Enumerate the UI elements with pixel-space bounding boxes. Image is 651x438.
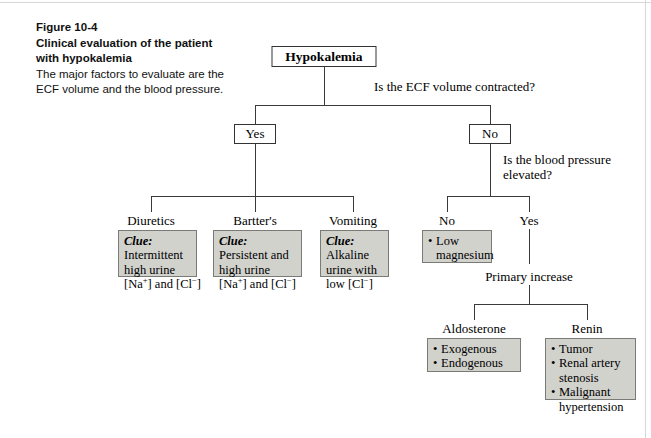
question-blood-pressure-line2: elevated? bbox=[503, 167, 552, 182]
edge-to-bp-yes bbox=[529, 196, 530, 212]
edge-to-ecf-yes bbox=[255, 105, 256, 124]
clue-bartters-line3: [Na+] and [Cl−] bbox=[219, 277, 296, 291]
node-ecf-no-label: No bbox=[482, 126, 498, 142]
figure-title-line1: Clinical evaluation of the patient bbox=[36, 36, 286, 52]
clue-box-vomiting: Clue: Alkaline urine with low [Cl−] bbox=[320, 230, 389, 277]
list-box-magnesium: •Low magnesium bbox=[422, 230, 492, 263]
clue-box-diuretics: Clue: Intermittent high urine [Na+] and … bbox=[118, 230, 197, 277]
figure-number: Figure 10-4 bbox=[36, 20, 286, 36]
clue-diuretics-head: Clue: bbox=[124, 234, 191, 248]
renin-item-2-cont: stenosis bbox=[551, 371, 630, 385]
clue-diuretics-line3: [Na+] and [Cl−] bbox=[124, 277, 191, 291]
label-vomiting: Vomiting bbox=[329, 213, 377, 228]
edge-to-ecf-no bbox=[490, 105, 491, 124]
edge-to-bartters bbox=[255, 196, 256, 212]
node-ecf-yes: Yes bbox=[234, 124, 276, 144]
renin-item-1: •Tumor bbox=[551, 342, 630, 356]
edge-root-trunk bbox=[324, 66, 325, 105]
node-hypokalemia-label: Hypokalemia bbox=[285, 49, 362, 65]
question-blood-pressure: Is the blood pressure elevated? bbox=[503, 152, 633, 182]
renin-item-3: •Malignant bbox=[551, 385, 630, 399]
aldosterone-item-1: •Exogenous bbox=[433, 342, 515, 356]
clue-bartters-head: Clue: bbox=[219, 234, 296, 248]
renin-item-2: •Renal artery bbox=[551, 356, 630, 370]
question-blood-pressure-line1: Is the blood pressure bbox=[503, 152, 611, 167]
page-rule-top bbox=[0, 2, 651, 3]
edge-to-diuretics bbox=[151, 196, 152, 212]
figure-desc-line2: ECF volume and the blood pressure. bbox=[36, 82, 286, 98]
clue-bartters-line1: Persistent and bbox=[219, 248, 296, 262]
page-rule-right bbox=[645, 0, 646, 438]
node-ecf-no: No bbox=[469, 124, 511, 144]
edge-bp-split-bar bbox=[447, 196, 530, 197]
edge-top-split-bar bbox=[255, 105, 491, 106]
label-diuretics: Diuretics bbox=[127, 213, 175, 228]
edge-no-trunk bbox=[490, 143, 491, 196]
edge-primary-trunk bbox=[529, 285, 530, 304]
edge-to-bp-no bbox=[447, 196, 448, 212]
clue-diuretics-line2: high urine bbox=[124, 263, 191, 277]
edge-to-aldosterone bbox=[474, 304, 475, 320]
clue-vomiting-line2: urine with bbox=[326, 263, 383, 277]
list-box-aldosterone: •Exogenous •Endogenous bbox=[427, 338, 521, 372]
renin-item-3-cont: hypertension bbox=[551, 400, 630, 414]
edge-to-vomiting bbox=[353, 196, 354, 212]
label-primary-increase: Primary increase bbox=[485, 269, 573, 284]
clue-vomiting-head: Clue: bbox=[326, 234, 383, 248]
edge-to-renin bbox=[587, 304, 588, 320]
edge-yes-trunk bbox=[255, 143, 256, 196]
list-box-renin: •Tumor •Renal artery stenosis •Malignant… bbox=[545, 338, 636, 400]
clue-vomiting-line3: low [Cl−] bbox=[326, 277, 383, 291]
clue-box-bartters: Clue: Persistent and high urine [Na+] an… bbox=[213, 230, 302, 277]
clue-diuretics-line1: Intermittent bbox=[124, 248, 191, 262]
edge-bp-yes-trunk bbox=[529, 229, 530, 264]
aldosterone-item-2: •Endogenous bbox=[433, 356, 515, 370]
figure-title-line2: with hypokalemia bbox=[36, 51, 286, 67]
clue-bartters-line2: high urine bbox=[219, 263, 296, 277]
node-hypokalemia: Hypokalemia bbox=[272, 46, 377, 67]
node-ecf-yes-label: Yes bbox=[246, 126, 265, 142]
label-bartters: Bartter's bbox=[233, 213, 277, 228]
figure-desc-line1: The major factors to evaluate are the bbox=[36, 67, 286, 83]
label-renin: Renin bbox=[571, 321, 602, 336]
figure-caption: Figure 10-4 Clinical evaluation of the p… bbox=[36, 20, 286, 98]
label-bp-yes: Yes bbox=[520, 213, 539, 228]
edge-primary-split-bar bbox=[474, 304, 587, 305]
figure-page: Figure 10-4 Clinical evaluation of the p… bbox=[0, 0, 651, 438]
question-ecf-volume: Is the ECF volume contracted? bbox=[374, 79, 535, 94]
edge-yes-split-bar bbox=[151, 196, 354, 197]
magnesium-item-1: •Low bbox=[428, 234, 486, 248]
label-bp-no: No bbox=[439, 213, 455, 228]
label-aldosterone: Aldosterone bbox=[442, 321, 506, 336]
magnesium-item-1-cont: magnesium bbox=[428, 248, 486, 262]
clue-vomiting-line1: Alkaline bbox=[326, 248, 383, 262]
